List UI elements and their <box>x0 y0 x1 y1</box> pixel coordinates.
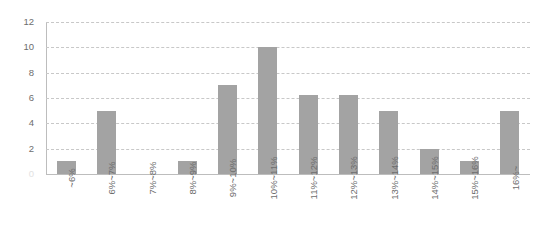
x-label-slot: 14%~15% <box>409 176 449 236</box>
y-tick-label-8: 8 <box>0 68 34 78</box>
x-tick-label: 8%~9% <box>187 161 198 194</box>
plot-area <box>46 22 530 174</box>
x-tick-label: 9%~10% <box>227 159 238 197</box>
x-label-slot: ~6% <box>46 176 86 236</box>
x-tick-label: 7%~8% <box>147 161 158 194</box>
y-tick-label-2: 2 <box>0 144 34 154</box>
x-label-slot: 8%~9% <box>167 176 207 236</box>
y-axis-labels: 12 10 8 6 4 2 0 <box>0 0 42 237</box>
bar-slot <box>127 22 167 174</box>
x-tick-label: 14%~15% <box>429 156 440 200</box>
y-tick-label-12: 12 <box>0 17 34 27</box>
x-tick-label: ~6% <box>66 168 77 187</box>
x-label-slot: 9%~10% <box>207 176 247 236</box>
x-label-slot: 6%~7% <box>86 176 126 236</box>
bar-slot <box>328 22 368 174</box>
bar-slot <box>369 22 409 174</box>
bar-slot <box>86 22 126 174</box>
axis-baseline <box>46 174 530 175</box>
y-tick-label-6: 6 <box>0 93 34 103</box>
x-label-slot: 7%~8% <box>127 176 167 236</box>
bar-slot <box>248 22 288 174</box>
x-label-slot: 13%~14% <box>369 176 409 236</box>
x-tick-label: 16%~ <box>510 166 521 191</box>
bar-slot <box>207 22 247 174</box>
x-tick-label: 10%~11% <box>268 157 279 200</box>
x-label-slot: 16%~ <box>490 176 530 236</box>
x-label-slot: 10%~11% <box>248 176 288 236</box>
x-tick-label: 15%~16% <box>469 156 480 200</box>
bar-slot <box>449 22 489 174</box>
bar-series <box>46 22 530 174</box>
bar <box>258 47 277 174</box>
bar-slot <box>46 22 86 174</box>
bar-slot <box>167 22 207 174</box>
x-label-slot: 12%~13% <box>328 176 368 236</box>
bar-slot <box>409 22 449 174</box>
x-tick-label: 11%~12% <box>308 157 319 200</box>
bar-chart: 12 10 8 6 4 2 0 <box>0 0 552 237</box>
y-tick-label-0: 0 <box>0 169 34 179</box>
bar-slot <box>288 22 328 174</box>
y-tick-label-4: 4 <box>0 118 34 128</box>
x-label-slot: 11%~12% <box>288 176 328 236</box>
bar-slot <box>490 22 530 174</box>
x-tick-label: 6%~7% <box>106 161 117 194</box>
x-axis-labels: ~6% 6%~7% 7%~8% 8%~9% 9%~10% 10%~11% 11%… <box>46 176 530 236</box>
y-tick-label-10: 10 <box>0 42 34 52</box>
x-tick-label: 12%~13% <box>348 156 359 200</box>
x-label-slot: 15%~16% <box>449 176 489 236</box>
x-tick-label: 13%~14% <box>389 156 400 200</box>
